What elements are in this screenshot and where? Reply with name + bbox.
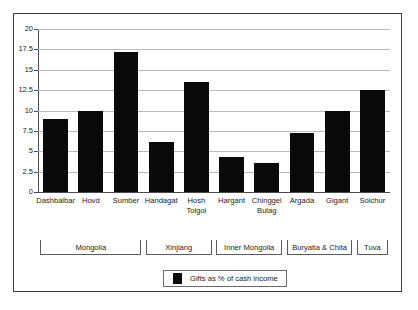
group-label-buryatia-chita: Buryatia & Chita: [288, 243, 352, 252]
y-tick-mark-2.5: [34, 172, 38, 173]
chart-legend: Gifts as % of cash income: [163, 270, 287, 287]
group-bracket-xinjiang: Xinjiang: [146, 240, 212, 255]
plot-area: [38, 29, 390, 192]
bar-handagat: [149, 142, 174, 192]
group-label-tuva: Tuva: [358, 243, 387, 252]
category-label-solchur: Solchur: [350, 196, 396, 206]
group-label-xinjiang: Xinjiang: [147, 243, 211, 252]
y-tick-mark-12.5: [34, 90, 38, 91]
y-tick-label-12.5: 12.5: [5, 86, 33, 94]
y-tick-label-5: 5: [5, 147, 33, 155]
y-tick-label-15: 15: [5, 66, 33, 74]
legend-swatch-gifts: [173, 273, 182, 284]
bar-hargant: [219, 157, 244, 192]
legend-label-gifts: Gifts as % of cash income: [190, 274, 278, 283]
y-axis-tick-labels: 2017.51512.5107.552.50: [0, 0, 33, 310]
group-bracket-tuva: Tuva: [357, 240, 388, 255]
region-group-brackets: MongoliaXinjiangInner MongoliaBuryatia &…: [38, 240, 390, 258]
y-tick-mark-17.5: [34, 49, 38, 50]
gridline-12.5: [38, 90, 390, 91]
y-tick-mark-15: [34, 70, 38, 71]
group-label-inner-mongolia: Inner Mongolia: [217, 243, 281, 252]
y-tick-mark-0: [34, 192, 38, 193]
gridline-20: [38, 29, 390, 30]
y-tick-label-7.5: 7.5: [5, 127, 33, 135]
group-bracket-inner-mongolia: Inner Mongolia: [216, 240, 282, 255]
y-tick-mark-20: [34, 29, 38, 30]
y-tick-label-10: 10: [5, 107, 33, 115]
y-tick-label-17.5: 17.5: [5, 45, 33, 53]
category-axis-labels: DashbalbarHovdSumberHandagatHoshTolgoiHa…: [38, 196, 390, 230]
bar-hovd: [78, 111, 103, 192]
bar-sumber: [114, 52, 139, 192]
bar-dashbalbar: [43, 119, 68, 192]
y-tick-mark-10: [34, 111, 38, 112]
gridline-17.5: [38, 49, 390, 50]
y-tick-label-0: 0: [5, 188, 33, 196]
y-tick-label-20: 20: [5, 25, 33, 33]
y-tick-label-2.5: 2.5: [5, 168, 33, 176]
bar-argada: [290, 133, 315, 192]
gridline-0: [38, 192, 390, 193]
y-tick-mark-5: [34, 151, 38, 152]
chart-figure: 2017.51512.5107.552.50 DashbalbarHovdSum…: [0, 0, 418, 310]
bar-solchur: [360, 90, 385, 192]
bar-hosh-tolgoi: [184, 82, 209, 192]
group-bracket-buryatia-chita: Buryatia & Chita: [287, 240, 353, 255]
bar-chinggel-bulag: [254, 163, 279, 192]
bar-gigant: [325, 111, 350, 192]
gridline-15: [38, 70, 390, 71]
y-tick-mark-7.5: [34, 131, 38, 132]
group-label-mongolia: Mongolia: [41, 243, 140, 252]
group-bracket-mongolia: Mongolia: [40, 240, 141, 255]
